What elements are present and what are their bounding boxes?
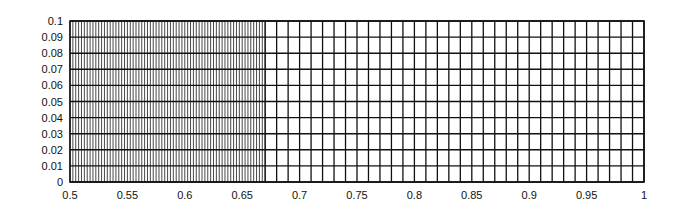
x-tick-label: 0.55 [117, 189, 138, 201]
y-tick-label: 0.08 [42, 47, 63, 59]
x-tick-label: 1 [641, 189, 647, 201]
y-tick-label: 0.09 [42, 31, 63, 43]
x-tick-label: 0.5 [62, 189, 77, 201]
y-tick-label: 0.1 [48, 15, 63, 27]
y-tick-label: 0.06 [42, 79, 63, 91]
mesh-chart: 0.50.550.60.650.70.750.80.850.90.951 00.… [0, 0, 679, 211]
x-tick-label: 0.85 [461, 189, 482, 201]
y-tick-label: 0.03 [42, 128, 63, 140]
y-tick-label: 0.04 [42, 112, 63, 124]
x-tick-label: 0.9 [522, 189, 537, 201]
x-tick-label: 0.65 [231, 189, 252, 201]
x-axis-ticks: 0.50.550.60.650.70.750.80.850.90.951 [62, 189, 647, 201]
x-tick-label: 0.8 [407, 189, 422, 201]
y-tick-label: 0.01 [42, 160, 63, 172]
y-tick-label: 0.05 [42, 96, 63, 108]
y-tick-label: 0 [57, 176, 63, 188]
y-tick-label: 0.02 [42, 144, 63, 156]
x-tick-label: 0.95 [576, 189, 597, 201]
x-tick-label: 0.7 [292, 189, 307, 201]
x-tick-label: 0.75 [346, 189, 367, 201]
y-tick-label: 0.07 [42, 63, 63, 75]
y-axis-ticks: 00.010.020.030.040.050.060.070.080.090.1 [42, 15, 63, 188]
x-tick-label: 0.6 [177, 189, 192, 201]
